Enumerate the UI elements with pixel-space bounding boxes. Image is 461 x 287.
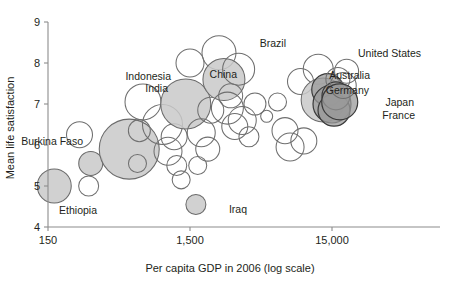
point-label: China — [210, 68, 238, 80]
point-label: Germany — [326, 84, 370, 96]
bubble-point — [261, 110, 273, 122]
y-axis-title: Mean life satisfaction — [4, 77, 16, 180]
point-label: France — [382, 109, 415, 121]
point-label: Indonesia — [125, 70, 171, 82]
bubble-point — [189, 157, 207, 175]
chart-canvas: 4567891501,50015,000 IndonesiaChinaBrazi… — [0, 0, 461, 287]
y-tick-label: 5 — [34, 180, 40, 192]
bubble-point — [79, 176, 99, 196]
bubble-chart: 4567891501,50015,000 IndonesiaChinaBrazi… — [0, 0, 461, 287]
x-axis-title: Per capita GDP in 2006 (log scale) — [145, 262, 314, 274]
x-tick-label: 150 — [39, 234, 57, 246]
point-label: Brazil — [260, 37, 286, 49]
bubble-point — [186, 194, 206, 214]
bubble-point — [228, 106, 256, 134]
y-tick-label: 7 — [34, 98, 40, 110]
x-tick-label: 1,500 — [176, 234, 204, 246]
bubble-point — [176, 49, 204, 77]
y-tick-label: 8 — [34, 57, 40, 69]
bubble-point — [222, 114, 248, 140]
point-label: Japan — [385, 96, 414, 108]
bubbles-layer — [37, 36, 358, 215]
bubble-point — [272, 118, 298, 144]
point-label: Iraq — [229, 203, 247, 215]
bubble-point — [276, 133, 304, 161]
point-label: Australia — [329, 69, 370, 81]
point-label: Burkina Faso — [21, 135, 83, 147]
bubble-point — [161, 79, 211, 129]
point-label: United States — [358, 47, 421, 59]
bubble-point — [196, 137, 220, 161]
y-tick-label: 9 — [34, 16, 40, 28]
bubble-point — [172, 171, 190, 189]
bubble-point — [37, 169, 71, 203]
point-label: Ethiopia — [59, 204, 97, 216]
x-tick-label: 15,000 — [315, 234, 349, 246]
y-tick-label: 4 — [34, 221, 40, 233]
bubble-point — [79, 151, 103, 175]
point-label: India — [145, 82, 168, 94]
bubble-point — [269, 93, 287, 111]
